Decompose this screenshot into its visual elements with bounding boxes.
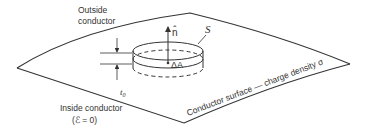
normal-label: n̂ [172,25,178,38]
surface-s-label: S [205,23,211,35]
outside-label-line1: Outside [78,5,108,15]
inside-label-line2: (ℰ = 0) [72,115,97,125]
area-label: ΔA [171,60,183,70]
surface-s-marker: S [198,23,211,44]
pillbox-bottom-front [133,68,203,77]
surface-label: Conductor surface — charge density σ [185,56,325,118]
thickness-dimension: t0 [100,38,132,98]
inside-label-line1: Inside conductor [60,103,123,113]
surface-top-edge [17,13,350,68]
outside-label-line2: conductor [78,16,115,26]
thickness-label: t0 [120,87,126,98]
gaussian-pillbox-diagram: n̂ S ΔA t0 Outside conductor Inside cond… [0,0,369,130]
